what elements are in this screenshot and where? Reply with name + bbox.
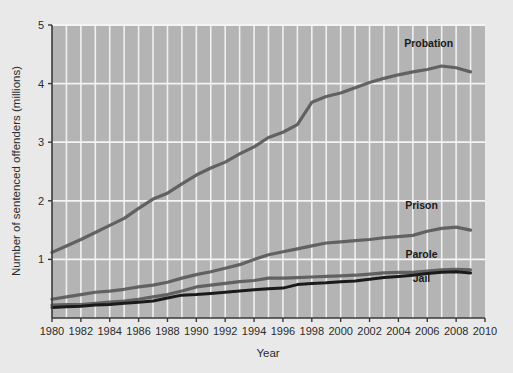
x-tick-label: 1982 (69, 325, 93, 337)
x-tick-label: 1998 (300, 325, 324, 337)
y-tick-label: 1 (38, 253, 44, 265)
x-tick-label: 1994 (242, 325, 266, 337)
series-label-probation: Probation (404, 37, 453, 49)
x-tick-label: 1996 (271, 325, 295, 337)
x-axis-title: Year (256, 347, 279, 359)
series-label-prison: Prison (405, 199, 438, 211)
x-tick-label: 1984 (97, 325, 121, 337)
chart-container: ProbationPrisonParoleJail 19801982198419… (0, 0, 513, 373)
x-tick-label: 2010 (473, 325, 497, 337)
x-tick-label: 1980 (40, 325, 64, 337)
line-chart: ProbationPrisonParoleJail 19801982198419… (0, 0, 513, 373)
x-tick-label: 1988 (155, 325, 179, 337)
series-label-parole: Parole (405, 248, 437, 260)
x-tick-label: 2006 (415, 325, 439, 337)
y-tick-label: 3 (38, 136, 44, 148)
x-tick-label: 2000 (328, 325, 352, 337)
y-tick-label: 5 (38, 19, 44, 31)
y-axis-title: Number of sentenced offenders (millions) (10, 66, 22, 276)
x-tick-label: 1990 (184, 325, 208, 337)
x-tick-label: 1986 (126, 325, 150, 337)
x-tick-label: 2008 (444, 325, 468, 337)
x-tick-label: 1992 (213, 325, 237, 337)
y-tick-label: 4 (38, 78, 44, 90)
y-tick-label: 2 (38, 195, 44, 207)
x-tick-label: 2002 (357, 325, 381, 337)
series-label-jail: Jail (413, 272, 431, 284)
x-tick-label: 2004 (386, 325, 410, 337)
